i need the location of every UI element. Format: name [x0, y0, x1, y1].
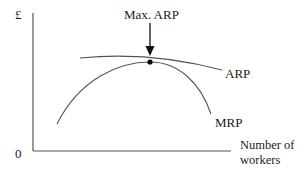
origin-label: 0	[15, 147, 22, 160]
mrp-label: MRP	[215, 116, 242, 129]
mrp-curve	[57, 62, 211, 124]
x-axis-label-line2: workers	[240, 154, 280, 167]
max-arp-point	[147, 59, 152, 64]
x-axis-label-line1: Number of	[240, 139, 295, 152]
max-arp-label: Max. ARP	[124, 8, 179, 21]
y-axis-label: £	[15, 8, 22, 21]
max-arp-arrowhead-icon	[146, 46, 155, 56]
arp-label: ARP	[225, 67, 250, 80]
